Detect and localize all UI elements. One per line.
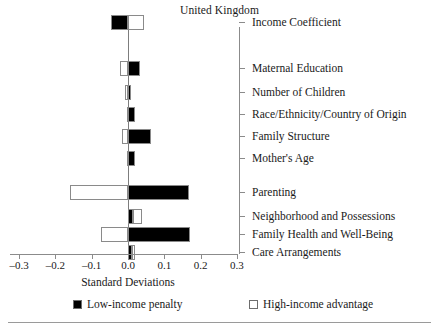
category-bracket-tick-2 (239, 92, 245, 93)
category-labels: Income CoefficientMaternal EducationNumb… (236, 18, 439, 258)
category-bracket-tick-0 (239, 22, 245, 23)
category-bracket-tick-7 (239, 216, 245, 217)
bar-black-7 (128, 209, 133, 224)
x-tick-label-2: –0.1 (82, 259, 101, 271)
category-label-4: Family Structure (252, 130, 330, 142)
x-tick-label-1: –0.2 (46, 259, 65, 271)
category-bracket-tick-6 (239, 192, 245, 193)
category-label-8: Family Health and Well-Being (252, 228, 393, 240)
bar-black-1 (128, 61, 140, 76)
bar-black-3 (128, 107, 135, 122)
x-tick-label-6: 0.3 (230, 259, 244, 271)
category-label-5: Mother's Age (252, 152, 314, 164)
x-tick-label-5: 0.2 (194, 259, 208, 271)
legend-swatch-filled-icon (73, 300, 82, 309)
legend-label-low: Low-income penalty (87, 298, 182, 310)
category-bracket-spine (239, 27, 240, 254)
x-tick-label-4: 0.1 (157, 259, 171, 271)
category-label-1: Maternal Education (252, 62, 343, 74)
category-bracket-tick-1 (239, 68, 245, 69)
bar-black-8 (128, 227, 190, 242)
bar-black-2 (128, 85, 131, 100)
bar-white-8 (101, 227, 128, 242)
legend-item-low-income-penalty: Low-income penalty (73, 298, 182, 310)
category-bracket-tick-3 (239, 114, 245, 115)
legend-label-high: High-income advantage (263, 298, 373, 310)
x-tick-label-3: 0.0 (121, 259, 135, 271)
bottom-divider (8, 322, 431, 323)
legend-item-high-income-advantage: High-income advantage (249, 298, 373, 310)
bar-black-0 (111, 15, 128, 30)
x-axis-label: Standard Deviations (13, 276, 243, 288)
bar-white-0 (128, 15, 144, 30)
category-label-0: Income Coefficient (252, 16, 341, 28)
category-bracket-tick-5 (239, 158, 245, 159)
category-label-6: Parenting (252, 186, 296, 198)
category-label-2: Number of Children (252, 86, 345, 98)
bar-black-6 (128, 185, 189, 200)
chart-legend: Low-income penalty High-income advantage (0, 298, 439, 316)
x-axis-line (10, 254, 238, 255)
category-bracket-tick-4 (239, 136, 245, 137)
category-bracket-tick-9 (239, 252, 245, 253)
category-label-3: Race/Ethnicity/Country of Origin (252, 108, 407, 120)
bar-white-7 (133, 209, 141, 224)
category-label-9: Care Arrangements (252, 246, 341, 258)
plot-area (0, 18, 250, 258)
x-tick-label-0: –0.3 (9, 259, 28, 271)
category-bracket-tick-8 (239, 234, 245, 235)
chart-figure: United Kingdom –0.3–0.2–0.10.00.10.20.3 … (0, 0, 439, 328)
chart-title: United Kingdom (0, 4, 439, 16)
bar-white-1 (120, 61, 128, 76)
category-label-7: Neighborhood and Possessions (252, 210, 395, 222)
bar-white-9 (132, 245, 135, 260)
bar-white-6 (70, 185, 128, 200)
legend-swatch-hollow-icon (249, 300, 258, 309)
bar-black-4 (128, 129, 151, 144)
bar-black-5 (128, 151, 135, 166)
